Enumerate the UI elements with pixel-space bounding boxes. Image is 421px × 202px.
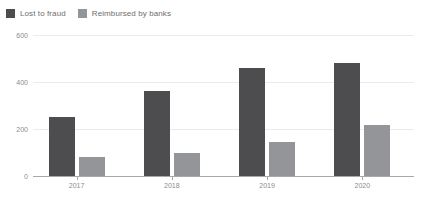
legend-item[interactable]: Reimbursed by banks — [78, 6, 171, 20]
bar[interactable] — [49, 117, 75, 176]
y-axis-tick-label: 0 — [24, 173, 28, 180]
bar[interactable] — [269, 142, 295, 176]
x-axis-tick-mark — [77, 176, 78, 180]
x-axis: 2017201820192020 — [33, 176, 414, 202]
x-axis-tick-label: 2019 — [259, 182, 275, 190]
x-axis-tick-label: 2018 — [164, 182, 180, 190]
y-axis-tick-label: 200 — [16, 126, 28, 133]
bar[interactable] — [364, 125, 390, 176]
y-axis-tick-label: 600 — [16, 32, 28, 39]
legend-swatch-reimbursed-by-banks — [78, 9, 87, 18]
bar-chart: Lost to fraudReimbursed by banks 0200400… — [0, 0, 421, 202]
y-axis-tick-label: 400 — [16, 79, 28, 86]
bar[interactable] — [239, 68, 265, 176]
x-axis-tick-label: 2017 — [69, 182, 85, 190]
chart-legend: Lost to fraudReimbursed by banks — [6, 6, 171, 20]
legend-item-label: Reimbursed by banks — [92, 9, 171, 18]
bar[interactable] — [79, 157, 105, 176]
x-axis-tick-mark — [362, 176, 363, 180]
bar[interactable] — [144, 91, 170, 176]
plot-area — [33, 35, 414, 176]
legend-item-label: Lost to fraud — [20, 9, 66, 18]
legend-swatch-lost-to-fraud — [6, 9, 15, 18]
bar[interactable] — [334, 63, 360, 176]
x-axis-tick-mark — [172, 176, 173, 180]
bar[interactable] — [174, 153, 200, 177]
x-axis-tick-label: 2020 — [355, 182, 371, 190]
x-axis-tick-mark — [267, 176, 268, 180]
legend-item[interactable]: Lost to fraud — [6, 6, 66, 20]
y-axis-labels: 0200400600 — [0, 35, 28, 176]
bar-group-container — [33, 35, 414, 176]
